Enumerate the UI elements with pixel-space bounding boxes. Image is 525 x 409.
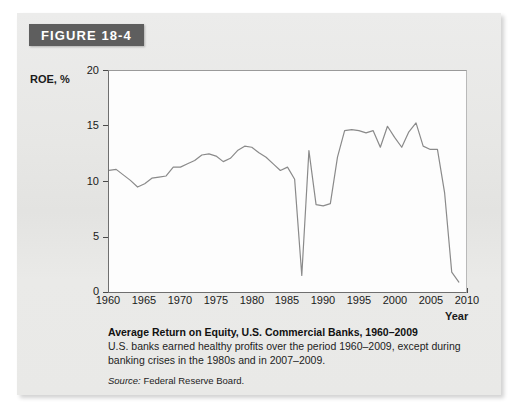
x-tick-label-2000: 2000: [378, 294, 412, 306]
x-tick-label-1995: 1995: [342, 294, 376, 306]
figure-caption: Average Return on Equity, U.S. Commercia…: [108, 325, 480, 386]
x-tick-label-1980: 1980: [235, 294, 269, 306]
source-label: Source:: [108, 375, 141, 386]
figure-panel: FIGURE 18-4 ROE, % Year 20 15 10 5 0: [17, 13, 501, 395]
y-axis-title: ROE, %: [30, 73, 70, 85]
y-tick-label-5: 5: [73, 230, 99, 242]
x-axis-title: Year: [445, 310, 468, 322]
x-tick-mark-2010: [467, 288, 468, 293]
figure-screenshot: FIGURE 18-4 ROE, % Year 20 15 10 5 0: [0, 0, 525, 409]
y-tick-label-15: 15: [73, 119, 99, 131]
roe-line-series: [109, 71, 466, 292]
x-tick-label-2010: 2010: [450, 294, 484, 306]
source-text: Federal Reserve Board.: [143, 375, 244, 386]
y-tick-label-10: 10: [73, 175, 99, 187]
caption-source: Source: Federal Reserve Board.: [108, 375, 480, 386]
plot-area: [108, 70, 467, 293]
x-tick-label-1970: 1970: [163, 294, 197, 306]
y-tick-label-20: 20: [73, 64, 99, 76]
x-tick-label-2005: 2005: [414, 294, 448, 306]
x-tick-label-1990: 1990: [306, 294, 340, 306]
x-tick-label-1975: 1975: [199, 294, 233, 306]
x-tick-label-1960: 1960: [91, 294, 125, 306]
caption-body: U.S. banks earned healthy profits over t…: [108, 340, 480, 367]
caption-title: Average Return on Equity, U.S. Commercia…: [108, 325, 480, 339]
x-tick-label-1965: 1965: [127, 294, 161, 306]
x-tick-label-1985: 1985: [270, 294, 304, 306]
